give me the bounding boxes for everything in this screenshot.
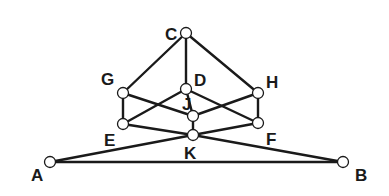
- node-label-e: E: [104, 131, 115, 150]
- node-label-k: K: [184, 144, 197, 163]
- node-label-d: D: [194, 71, 206, 90]
- node-f: [253, 118, 264, 129]
- node-h: [253, 88, 264, 99]
- node-e: [118, 119, 129, 130]
- node-b: [338, 157, 349, 168]
- node-label-b: B: [355, 166, 367, 185]
- graph-diagram: CGDHJEFKAB: [0, 0, 389, 196]
- node-a: [45, 157, 56, 168]
- edges: [50, 33, 343, 162]
- node-k: [188, 130, 199, 141]
- node-label-g: G: [101, 70, 114, 89]
- edge-a-k: [50, 135, 193, 162]
- node-c: [181, 28, 192, 39]
- node-label-c: C: [165, 25, 177, 44]
- node-label-j: J: [182, 95, 191, 114]
- nodes: [45, 28, 349, 168]
- node-label-f: F: [266, 130, 276, 149]
- node-label-a: A: [31, 166, 43, 185]
- node-label-h: H: [266, 73, 278, 92]
- node-d: [181, 84, 192, 95]
- edge-d-e: [123, 89, 186, 124]
- node-g: [118, 88, 129, 99]
- edge-e-k: [123, 124, 193, 135]
- edge-k-f: [193, 123, 258, 135]
